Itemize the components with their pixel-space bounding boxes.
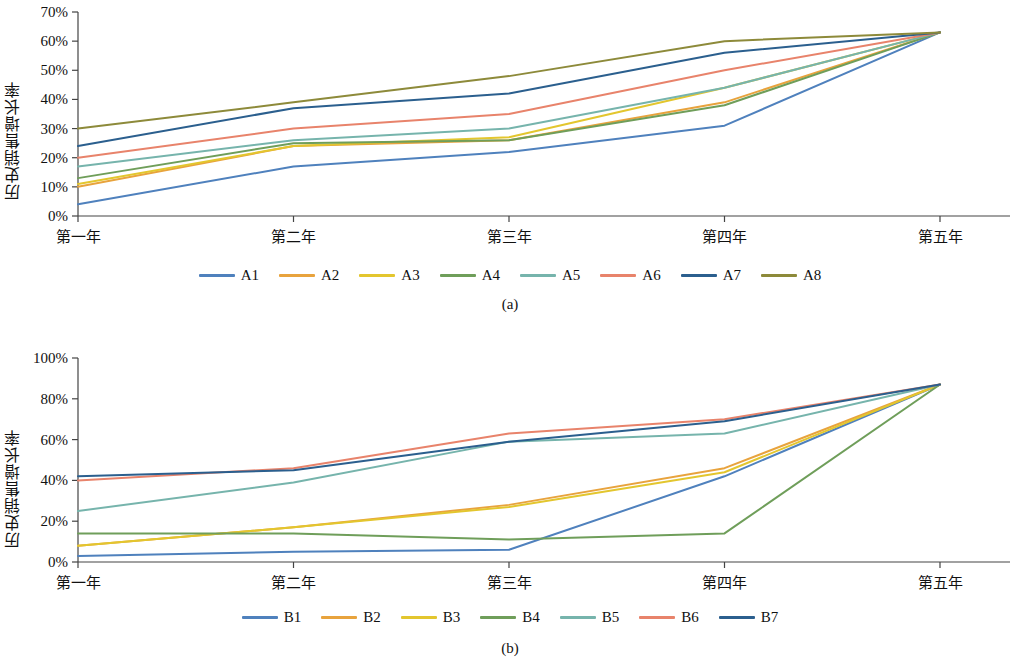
legend-item-b2[interactable]: B2: [321, 610, 381, 625]
series-line-b1: [78, 385, 940, 556]
y-tick-label: 100%: [33, 350, 68, 366]
y-tick-label: 0%: [48, 554, 68, 570]
legend-item-b1[interactable]: B1: [242, 610, 302, 625]
legend-label: B5: [602, 610, 620, 625]
x-tick-label: 第四年: [702, 574, 747, 591]
legend-swatch-a5: [520, 274, 556, 277]
y-tick-label: 20%: [41, 513, 69, 529]
y-tick-label: 40%: [41, 472, 69, 488]
legend-item-a5[interactable]: A5: [520, 268, 580, 283]
chart-a-caption: (a): [0, 296, 1020, 313]
legend-swatch-b4: [480, 616, 516, 619]
chart-a-legend: A1A2A3A4A5A6A7A8: [0, 268, 1020, 283]
legend-swatch-b2: [321, 616, 357, 619]
legend-item-b6[interactable]: B6: [639, 610, 699, 625]
x-tick-label: 第三年: [487, 574, 532, 591]
legend-item-a2[interactable]: A2: [279, 268, 339, 283]
legend-label: B1: [284, 610, 302, 625]
x-tick-label: 第三年: [487, 228, 532, 245]
y-tick-label: 70%: [41, 4, 69, 20]
legend-item-a1[interactable]: A1: [199, 268, 259, 283]
series-line-a5: [78, 32, 940, 166]
legend-swatch-b7: [719, 616, 755, 619]
legend-label: B3: [443, 610, 461, 625]
series-line-b6: [78, 385, 940, 481]
legend-swatch-a1: [199, 274, 235, 277]
x-tick-label: 第四年: [702, 228, 747, 245]
y-tick-label: 10%: [41, 179, 69, 195]
legend-item-b3[interactable]: B3: [401, 610, 461, 625]
legend-item-a4[interactable]: A4: [440, 268, 500, 283]
legend-item-b4[interactable]: B4: [480, 610, 540, 625]
legend-swatch-b5: [560, 616, 596, 619]
legend-item-a8[interactable]: A8: [761, 268, 821, 283]
legend-label: B7: [761, 610, 779, 625]
legend-item-a7[interactable]: A7: [681, 268, 741, 283]
series-line-b3: [78, 385, 940, 546]
series-line-b5: [78, 385, 940, 511]
legend-swatch-a3: [359, 274, 395, 277]
legend-label: A7: [723, 268, 741, 283]
legend-swatch-a6: [600, 274, 636, 277]
legend-item-b7[interactable]: B7: [719, 610, 779, 625]
legend-item-a3[interactable]: A3: [359, 268, 419, 283]
y-tick-label: 40%: [41, 91, 69, 107]
legend-label: A6: [642, 268, 660, 283]
series-line-b4: [78, 385, 940, 540]
y-tick-label: 20%: [41, 150, 69, 166]
y-tick-label: 50%: [41, 62, 69, 78]
legend-swatch-a8: [761, 274, 797, 277]
y-tick-label: 60%: [41, 33, 69, 49]
legend-item-a6[interactable]: A6: [600, 268, 660, 283]
x-tick-label: 第二年: [271, 228, 316, 245]
figure-page: 历史销售增长率 0%10%20%30%40%50%60%70%第一年第二年第三年…: [0, 0, 1020, 667]
x-tick-label: 第五年: [918, 574, 963, 591]
legend-item-b5[interactable]: B5: [560, 610, 620, 625]
legend-swatch-a2: [279, 274, 315, 277]
x-tick-label: 第二年: [271, 574, 316, 591]
legend-label: A3: [401, 268, 419, 283]
legend-swatch-a7: [681, 274, 717, 277]
legend-swatch-a4: [440, 274, 476, 277]
legend-label: A4: [482, 268, 500, 283]
chart-a-plot: 0%10%20%30%40%50%60%70%第一年第二年第三年第四年第五年: [0, 0, 1020, 255]
legend-label: B2: [363, 610, 381, 625]
series-line-a6: [78, 32, 940, 157]
x-tick-label: 第五年: [918, 228, 963, 245]
y-tick-label: 60%: [41, 432, 69, 448]
series-line-a1: [78, 32, 940, 204]
x-tick-label: 第一年: [56, 574, 101, 591]
x-tick-label: 第一年: [56, 228, 101, 245]
y-tick-label: 30%: [41, 121, 69, 137]
legend-swatch-b1: [242, 616, 278, 619]
chart-b-caption: (b): [0, 640, 1020, 657]
legend-label: B4: [522, 610, 540, 625]
legend-label: A8: [803, 268, 821, 283]
legend-label: A5: [562, 268, 580, 283]
chart-b-plot: 0%20%40%60%80%100%第一年第二年第三年第四年第五年: [0, 340, 1020, 595]
legend-label: A2: [321, 268, 339, 283]
legend-label: B6: [681, 610, 699, 625]
y-tick-label: 0%: [48, 208, 68, 224]
series-line-b2: [78, 385, 940, 546]
legend-swatch-b3: [401, 616, 437, 619]
legend-label: A1: [241, 268, 259, 283]
series-line-b7: [78, 385, 940, 477]
legend-swatch-b6: [639, 616, 675, 619]
chart-b-legend: B1B2B3B4B5B6B7: [0, 610, 1020, 625]
y-tick-label: 80%: [41, 391, 69, 407]
